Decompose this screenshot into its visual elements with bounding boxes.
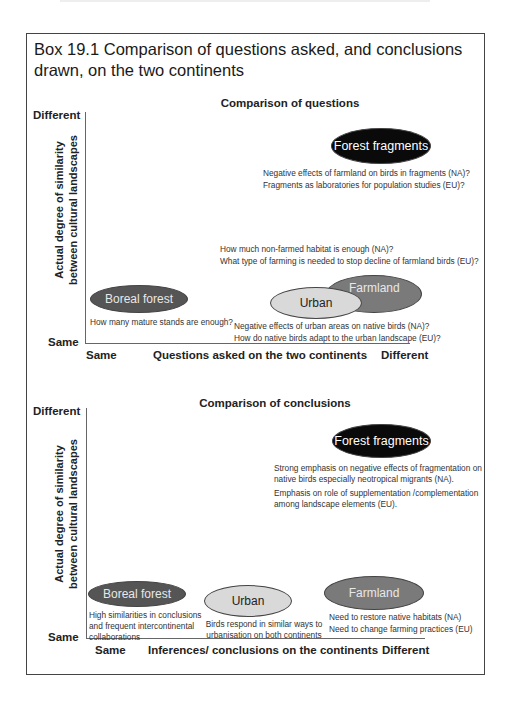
note-line: Fragments as laboratories for population… (263, 179, 470, 191)
farmland-ellipse: Farmland (324, 576, 424, 610)
forest-fragments-ellipse: Forest fragments (331, 128, 431, 164)
note-line: Strong emphasis on negative effects of f… (274, 463, 496, 485)
urban-ellipse: Urban (270, 287, 362, 319)
x-axis-left-label: Same (86, 349, 117, 361)
x-axis-right-label: Different (381, 349, 428, 361)
note-line: What type of farming is needed to stop d… (220, 255, 479, 267)
note-line: How much non-farmed habitat is enough (N… (220, 243, 479, 255)
boreal-forest-ellipse: Boreal forest (90, 285, 188, 313)
chart-title: Comparison of questions (200, 97, 380, 109)
y-axis-label-line-2: between cultural landscapes (66, 434, 80, 594)
y-axis-top-label: Different (33, 405, 80, 417)
cut-off-header-text (60, 0, 430, 2)
note-line: High similarities in conclusions and fre… (89, 610, 204, 643)
y-axis-line (86, 408, 87, 638)
y-axis-bottom-label: Same (48, 631, 79, 643)
boreal-forest-notes: How many mature stands are enough? (90, 316, 233, 328)
y-axis-label-line-1: Actual degree of similarity (52, 130, 66, 290)
farmland-notes: Need to restore native habitats (NA) Nee… (329, 611, 472, 635)
y-axis-label-line-2: between cultural landscapes (66, 130, 80, 290)
note-line: How do native birds adapt to the urban l… (234, 332, 441, 344)
y-axis-label-line-1: Actual degree of similarity (52, 434, 66, 594)
urban-ellipse: Urban (204, 585, 292, 617)
note-line: Birds respond in similar ways to urbanis… (204, 619, 324, 641)
forest-fragments-ellipse: Forest fragments (332, 424, 431, 458)
y-axis-line (85, 112, 86, 343)
farmland-notes: How much non-farmed habitat is enough (N… (220, 243, 479, 267)
y-axis-label: Actual degree of similarity between cult… (52, 130, 80, 290)
y-axis-label: Actual degree of similarity between cult… (52, 434, 80, 594)
y-axis-top-label: Different (33, 109, 80, 121)
note-line: How many mature stands are enough? (90, 316, 233, 328)
urban-notes: Negative effects of urban areas on nativ… (234, 320, 441, 344)
forest-fragments-notes: Negative effects of farmland on birds in… (263, 167, 470, 191)
x-axis-label: Questions asked on the two continents (153, 349, 367, 361)
boreal-forest-notes: High similarities in conclusions and fre… (89, 610, 204, 646)
note-line: Negative effects of farmland on birds in… (263, 167, 470, 179)
box-title: Box 19.1 Comparison of questions asked, … (34, 39, 479, 81)
y-axis-bottom-label: Same (48, 336, 79, 348)
boreal-forest-ellipse: Boreal forest (88, 581, 186, 607)
note-line: Emphasis on role of supplementation /com… (274, 488, 496, 510)
note-line: Need to change farming practices (EU) (329, 623, 472, 635)
urban-notes: Birds respond in similar ways to urbanis… (204, 619, 324, 644)
x-axis-right-label: Different (382, 644, 429, 656)
note-line: Need to restore native habitats (NA) (329, 611, 472, 623)
note-line: Negative effects of urban areas on nativ… (234, 320, 441, 332)
forest-fragments-notes: Strong emphasis on negative effects of f… (274, 463, 496, 513)
chart-title: Comparison of conclusions (180, 397, 370, 409)
